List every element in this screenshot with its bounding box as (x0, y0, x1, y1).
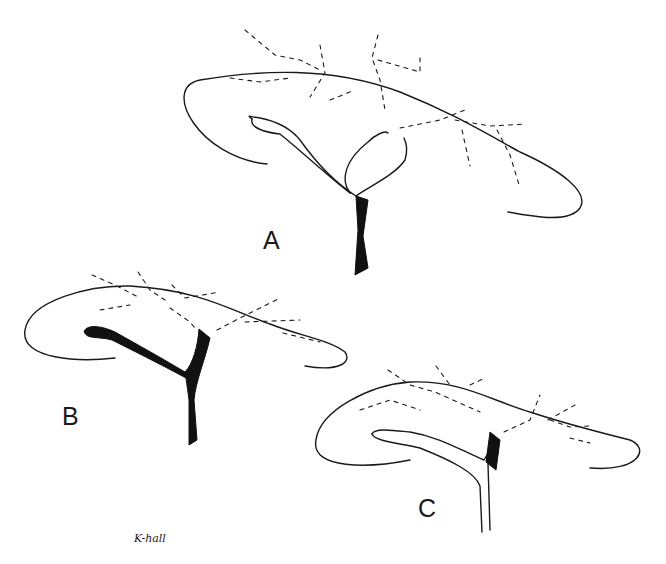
panel-c-drawing (316, 366, 640, 532)
panel-a-drawing (184, 30, 582, 275)
panel-label-a: A (263, 226, 280, 255)
panel-label-b: B (62, 402, 79, 431)
panel-label-c: C (418, 494, 436, 523)
anatomical-diagram (0, 0, 666, 564)
artist-signature: K-hall (134, 532, 166, 545)
